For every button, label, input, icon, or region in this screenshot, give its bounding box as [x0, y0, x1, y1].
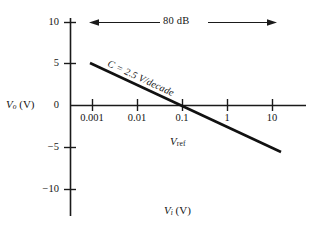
- y-axis-title-symbol: V: [6, 98, 13, 110]
- x-tick-label-10: 10: [250, 113, 294, 124]
- span-arrowhead-right: [267, 19, 277, 26]
- x-tick-label-0.01: 0.01: [115, 113, 159, 124]
- x-axis-title: Vi (V): [164, 205, 191, 217]
- vref-subscript: ref: [177, 139, 186, 148]
- y-tick-label-5: 5: [25, 58, 59, 69]
- span-arrowhead-left: [89, 19, 99, 26]
- vref-symbol: V: [170, 135, 177, 147]
- x-axis-title-symbol: V: [164, 204, 171, 216]
- x-tick-label-0.001: 0.001: [70, 113, 114, 124]
- figure-chart-transfer-curve: 10 5 0 −5 −10 0.001 0.01 0.1 1 10 Vo (V)…: [0, 0, 316, 233]
- vref-annotation: Vref: [170, 136, 186, 148]
- x-tick-label-0.1: 0.1: [160, 113, 204, 124]
- x-axis-title-subscript: i: [171, 208, 173, 217]
- y-tick-label-10: 10: [25, 17, 59, 28]
- x-tick-label-1: 1: [205, 113, 249, 124]
- y-tick-label-minus-10: −10: [25, 184, 59, 195]
- y-axis-title: Vo (V): [6, 99, 35, 111]
- y-axis-title-subscript: o: [13, 102, 17, 111]
- y-tick-label-minus-5: −5: [25, 142, 59, 153]
- y-axis-title-unit: (V): [19, 98, 34, 110]
- span-label-80db: 80 dB: [163, 16, 189, 27]
- x-axis-title-unit: (V): [176, 204, 191, 216]
